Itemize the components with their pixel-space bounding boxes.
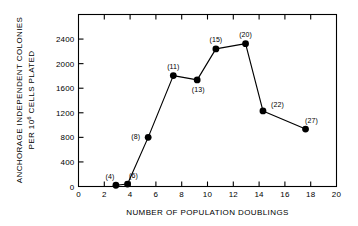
x-tick-label: 2 — [102, 190, 107, 199]
x-axis-title: NUMBER OF POPULATION DOUBLINGS — [126, 208, 289, 217]
x-tick-label: 10 — [203, 190, 213, 199]
x-tick-label: 12 — [229, 190, 239, 199]
data-point-label: (27) — [305, 117, 318, 125]
data-point-label: (13) — [192, 86, 205, 94]
y-tick-label: 2400 — [56, 35, 75, 44]
y-tick-label: 1200 — [56, 109, 75, 118]
x-tick-label: 6 — [154, 190, 159, 199]
data-point-label: (15) — [209, 36, 222, 44]
y-tick-label: 800 — [61, 133, 75, 142]
y-tick-label: 400 — [61, 158, 75, 167]
data-point-label: (22) — [271, 101, 284, 109]
data-point-label: (4) — [105, 173, 114, 181]
x-tick-label: 0 — [76, 190, 81, 199]
data-point — [124, 181, 131, 188]
data-point-label: (6) — [129, 172, 138, 180]
data-point-label: (8) — [131, 133, 140, 141]
x-tick-label: 14 — [254, 190, 264, 199]
data-point-label: (20) — [239, 31, 252, 39]
y-axis-title-line-1: ANCHORAGE INDEPENDENT COLONIES — [15, 17, 24, 184]
data-point — [194, 77, 201, 84]
data-point — [302, 126, 309, 133]
line-chart: 04008001200160020002400 0246810121416182… — [0, 0, 358, 226]
chart-figure: 04008001200160020002400 0246810121416182… — [0, 0, 358, 226]
data-point — [145, 134, 152, 141]
data-point — [242, 40, 249, 47]
y-axis-title-line-2: PER 106 CELLS PLATED — [26, 51, 36, 150]
y-axis-title-suffix: CELLS PLATED — [27, 51, 36, 117]
x-tick-label: 4 — [128, 190, 133, 199]
y-tick-label: 2000 — [56, 60, 75, 69]
data-point — [113, 182, 120, 189]
y-tick-label: 0 — [70, 183, 75, 192]
x-tick-label: 20 — [332, 190, 342, 199]
data-point — [260, 108, 267, 115]
data-point-label: (11) — [167, 63, 179, 71]
x-tick-label: 16 — [280, 190, 290, 199]
x-tick-label: 18 — [306, 190, 316, 199]
data-point — [212, 46, 219, 53]
x-tick-label: 8 — [179, 190, 184, 199]
y-tick-label: 1600 — [56, 84, 75, 93]
y-axis-title-prefix: PER 10 — [27, 119, 36, 149]
data-point — [170, 72, 177, 79]
